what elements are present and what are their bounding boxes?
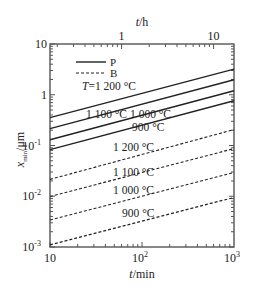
- axis-unit: /μm: [13, 131, 27, 151]
- series-line-b: [50, 197, 234, 245]
- x-tick-label: 103: [224, 250, 240, 265]
- x-top-axis-label: t/h: [136, 15, 149, 29]
- tick-exponent: -1: [34, 138, 41, 147]
- label-rest: =1 200 °C: [88, 80, 136, 92]
- temperature-label: T=1 200 °C: [82, 80, 136, 92]
- temperature-label: 1 000 °C: [130, 108, 171, 120]
- x-axis-label: t/min: [129, 267, 154, 281]
- x-top-tick-label: 10: [208, 29, 220, 43]
- tick-exponent: 2: [144, 250, 148, 259]
- y-axis-label: xmin/μm: [13, 131, 29, 168]
- y-tick-label: 1: [41, 88, 47, 102]
- tick-exponent: 3: [236, 250, 240, 259]
- temperature-label: 1 000 °C: [113, 184, 154, 196]
- temperature-label: 1 100 °C: [113, 166, 154, 178]
- y-tick-label: 10-3: [22, 239, 41, 254]
- annotations: T=1 200 °C1 100 °C1 000 °C900 °C1 200 °C…: [82, 80, 171, 219]
- temperature-label: 1 100 °C: [86, 108, 127, 120]
- x-tick-label: 102: [132, 250, 148, 265]
- axis-var-sub: min: [21, 150, 29, 161]
- y-tick-label: 10: [35, 37, 47, 51]
- axis-unit: /min: [133, 267, 155, 281]
- legend: PB: [76, 56, 117, 79]
- legend-label: B: [110, 67, 117, 79]
- chart-container: 1010210311010110-110-210-3 PB T=1 200 °C…: [0, 0, 256, 290]
- x-top-tick-label: 1: [119, 29, 125, 43]
- temperature-label: 900 °C: [122, 207, 155, 219]
- tick-exponent: -3: [34, 239, 41, 248]
- tick-exponent: -2: [34, 188, 41, 197]
- axis-unit: /h: [139, 15, 148, 29]
- temperature-label: 900 °C: [132, 121, 165, 133]
- y-tick-label: 10-2: [22, 188, 41, 203]
- chart-svg: 1010210311010110-110-210-3 PB T=1 200 °C…: [0, 0, 256, 290]
- x-tick-label: 10: [44, 251, 56, 265]
- temperature-label: 1 200 °C: [113, 141, 154, 153]
